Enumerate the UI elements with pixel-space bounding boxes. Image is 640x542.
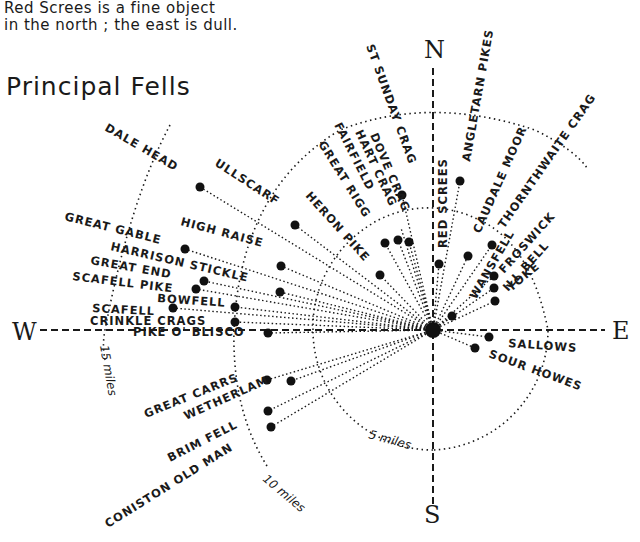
compass-north: N — [424, 36, 445, 64]
label-red-screes: RED SCREES — [436, 158, 450, 248]
label-dale-head: DALE HEAD — [103, 120, 182, 173]
compass-south: S — [424, 501, 440, 529]
label-sallows: SALLOWS — [508, 336, 578, 355]
ring-label-5-miles: 5 miles — [367, 427, 413, 452]
label-pike-o-blisco: PIKE O' BLISCO — [133, 325, 245, 339]
ring-label-10-miles: 10 miles — [260, 472, 308, 516]
compass-west: W — [12, 318, 37, 346]
ring-label-15-miles: 15 miles — [97, 344, 120, 397]
label-angletarn-pikes: ANGLETARN PIKES — [459, 28, 496, 163]
label-high-raise: HIGH RAISE — [179, 214, 265, 250]
compass-east: E — [612, 317, 630, 345]
fells-radial-diagram: N S E W 5 miles 10 miles 15 miles DALE H… — [0, 0, 640, 542]
label-bowfell: BOWFELL — [157, 291, 226, 310]
label-ullscarf: ULLSCARF — [212, 156, 282, 208]
viewpoint-centre — [425, 322, 441, 338]
fell-labels: DALE HEAD ULLSCARF HERON PIKE GREAT RIGG… — [63, 28, 598, 531]
